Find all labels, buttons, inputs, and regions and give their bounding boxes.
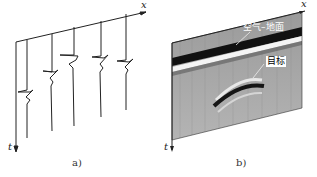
x-label-a: x: [141, 0, 147, 10]
trace-5: [117, 14, 133, 110]
annotation-target: 目标: [266, 56, 286, 67]
t-arrow-a: [14, 146, 18, 152]
trace-4: [92, 21, 108, 117]
t-label-b: t: [164, 141, 168, 152]
trace-3: [60, 27, 78, 126]
x-arrow-a: [140, 12, 146, 15]
trace-2: [43, 34, 58, 131]
caption-a: a): [72, 157, 82, 168]
x-label-b: x: [301, 0, 307, 9]
panel-b: [170, 10, 305, 152]
t-label-a: t: [8, 141, 12, 152]
caption-b: b): [236, 157, 246, 168]
trace-1: [18, 40, 33, 138]
panel-a: [14, 12, 146, 152]
t-arrow-b: [170, 146, 174, 152]
annotation-surface: 空气–地面: [242, 22, 285, 33]
